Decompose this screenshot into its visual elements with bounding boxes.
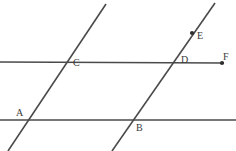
upper-horizontal-line [0, 62, 224, 63]
point-label-c: C [73, 58, 80, 68]
geometry-diagram: A B C D E F [0, 0, 236, 151]
point-label-e: E [197, 31, 203, 41]
point-marker-e [190, 31, 194, 35]
point-label-f: F [223, 52, 229, 62]
geometry-canvas [0, 0, 236, 151]
point-label-a: A [16, 108, 23, 118]
point-label-d: D [181, 55, 188, 65]
point-label-b: B [136, 123, 143, 133]
